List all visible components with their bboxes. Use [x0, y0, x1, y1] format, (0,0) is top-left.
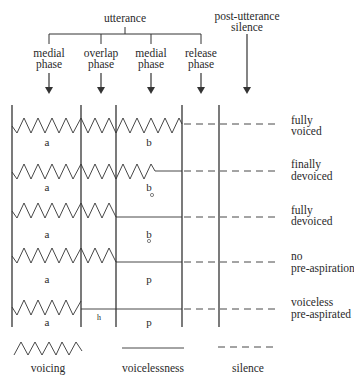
arrow-down-icon [97, 87, 105, 94]
row-label-line2: devoiced [291, 170, 333, 182]
vowel-symbol: a [45, 136, 50, 148]
row-label-line2: devoiced [291, 215, 333, 227]
phase-release: release phase [185, 47, 217, 94]
row-label-line1: no [291, 250, 303, 262]
row-finally-devoiced: a b finally devoiced [12, 158, 333, 197]
consonant-symbol: p [146, 316, 152, 328]
devoiced-ring-diacritic [150, 193, 153, 196]
utterance-header: utterance [49, 12, 201, 44]
phase-medial-1: medial phase [33, 47, 64, 94]
arrow-down-icon [197, 87, 205, 94]
voicing-wave [12, 248, 116, 263]
legend: voicing voicelessness silence [14, 342, 278, 375]
legend-voicing: voicing [14, 342, 82, 375]
consonant-symbol: p [146, 273, 152, 285]
voicing-wave-icon [14, 342, 82, 355]
vowel-symbol: a [45, 316, 50, 328]
voicing-wave [12, 300, 81, 315]
legend-voicelessness-label: voicelessness [122, 362, 184, 374]
voicing-wave [12, 164, 155, 179]
phase-medial-2: medial phase [135, 47, 166, 94]
phase-overlap: overlap phase [84, 47, 119, 94]
voicing-wave [12, 203, 116, 218]
vowel-symbol: a [45, 181, 50, 193]
aspiration-symbol: h [97, 313, 101, 322]
phase-labels: medial phase overlap phase medial phase … [33, 47, 217, 94]
arrow-down-icon [45, 87, 53, 94]
svg-text:phase: phase [138, 58, 164, 71]
arrow-down-icon [243, 87, 251, 94]
arrow-down-icon [147, 87, 155, 94]
row-no-pre-aspiration: a p no pre-aspiration [12, 248, 354, 285]
legend-voicing-label: voicing [31, 362, 66, 375]
utterance-label: utterance [104, 12, 146, 24]
consonant-symbol: b [146, 136, 152, 148]
vowel-symbol: a [45, 228, 50, 240]
post-utterance-header: post-utterance silence [214, 10, 279, 94]
svg-text:phase: phase [188, 58, 214, 71]
vowel-symbol: a [45, 273, 50, 285]
svg-text:phase: phase [88, 58, 114, 71]
row-fully-voiced: a b fully voiced [12, 114, 322, 148]
legend-silence-label: silence [232, 362, 264, 374]
consonant-symbol: b [146, 181, 152, 193]
row-fully-devoiced: a b fully devoiced [12, 203, 333, 243]
legend-silence: silence [218, 347, 278, 374]
legend-voicelessness: voicelessness [122, 348, 184, 374]
svg-text:phase: phase [36, 58, 62, 71]
row-label-line2: pre-aspiration [291, 262, 354, 275]
phonation-phase-diagram: utterance post-utterance silence medial … [0, 0, 354, 378]
row-label-line2: pre-aspirated [291, 308, 351, 321]
post-utterance-label-line2: silence [231, 21, 263, 33]
row-label-line1: voiceless [291, 296, 334, 308]
consonant-symbol: b [146, 228, 152, 240]
voicing-wave [12, 118, 182, 133]
row-label-line2: voiced [291, 125, 322, 137]
